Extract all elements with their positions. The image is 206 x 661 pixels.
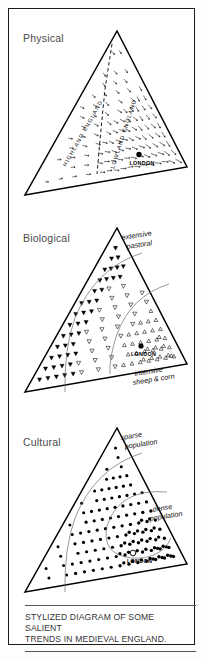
symbol-open-up-triangle [159, 327, 163, 331]
symbol-open-up-triangle [146, 319, 150, 323]
symbol-filled-down-triangle [60, 364, 64, 368]
population-dot [127, 550, 130, 553]
symbol-open-down-triangle [84, 330, 88, 334]
figure-root: Physical HIGHLAND ENGLAND LOWLAND ENGLAN… [0, 0, 206, 661]
population-dot [141, 550, 144, 553]
population-dot [154, 538, 157, 541]
population-dot [105, 468, 108, 471]
symbol-filled-down-triangle [113, 246, 117, 250]
symbol-filled-down-triangle [58, 355, 62, 359]
population-dot [117, 515, 120, 518]
symbol-open-up-triangle [168, 345, 172, 349]
population-dot [125, 494, 128, 497]
symbol-open-down-triangle [116, 315, 120, 319]
population-dot [117, 456, 120, 459]
symbol-open-up-triangle [162, 344, 166, 348]
symbol-open-down-triangle [119, 334, 123, 338]
population-dot [114, 447, 117, 450]
population-dot [121, 524, 124, 527]
population-dot [95, 499, 98, 502]
population-dot [90, 510, 93, 513]
population-dot [93, 519, 96, 522]
symbol-open-up-triangle [150, 356, 154, 360]
caption-text: STYLIZED DIAGRAM OF SOME SALIENT TRENDS … [25, 606, 178, 651]
symbol-open-up-triangle [122, 363, 126, 367]
population-dot [129, 483, 132, 486]
symbol-open-down-triangle [131, 322, 135, 326]
population-dot [105, 478, 108, 481]
symbol-open-down-triangle [110, 296, 114, 300]
symbol-open-down-triangle [140, 291, 144, 295]
population-dot [87, 530, 90, 533]
symbol-open-down-triangle [96, 368, 100, 372]
london-label-physical: LONDON [130, 160, 155, 166]
symbol-open-up-triangle [142, 357, 146, 361]
population-dot [111, 546, 114, 549]
population-dot [112, 526, 115, 529]
population-dot [118, 495, 121, 498]
population-dot [96, 529, 99, 532]
symbol-open-up-triangle [139, 321, 143, 325]
symbol-filled-down-triangle [104, 278, 108, 282]
population-dot [76, 552, 79, 555]
population-dot [116, 535, 119, 538]
population-dot [153, 546, 156, 549]
panel-title-physical: Physical [23, 32, 64, 44]
symbol-filled-down-triangle [76, 322, 80, 326]
symbol-filled-down-triangle [54, 375, 58, 379]
cultural-diagram: sparse population dense population LONDO… [9, 396, 196, 602]
symbol-filled-down-triangle [115, 266, 119, 270]
annotation-intensive-sheep-corn: intensive sheep & corn [132, 365, 175, 387]
population-dot [128, 543, 131, 546]
zone-label-highland: HIGHLAND ENGLAND [62, 99, 104, 167]
symbol-open-up-triangle [139, 340, 143, 344]
symbol-open-down-triangle [87, 340, 91, 344]
symbol-open-up-triangle [155, 338, 159, 342]
london-label-cultural: LONDON [127, 558, 152, 564]
symbol-filled-down-triangle [118, 275, 122, 279]
symbol-filled-down-triangle [74, 352, 78, 356]
population-dot [98, 508, 101, 511]
population-dot [125, 474, 128, 477]
population-dot [145, 500, 148, 503]
population-dot [101, 567, 104, 570]
population-dot [121, 504, 124, 507]
london-label-biological: LONDON [131, 351, 156, 357]
symbol-open-up-triangle [166, 353, 170, 357]
caption-block: STYLIZED DIAGRAM OF SOME SALIENT TRENDS … [17, 605, 186, 652]
symbol-filled-down-triangle [63, 344, 67, 348]
zone-label-highland-text: HIGHLAND ENGLAND [62, 99, 104, 167]
symbol-filled-down-triangle [109, 257, 113, 261]
symbol-open-down-triangle [97, 308, 101, 312]
symbol-open-down-triangle [100, 328, 104, 332]
figure-frame: Physical HIGHLAND ENGLAND LOWLAND ENGLAN… [8, 8, 195, 645]
population-dot [59, 555, 62, 558]
panel-physical: Physical HIGHLAND ENGLAND LOWLAND ENGLAN… [9, 9, 194, 214]
population-dot [161, 545, 164, 548]
population-dot [158, 528, 161, 531]
symbol-filled-down-triangle [89, 310, 93, 314]
population-dot [154, 558, 157, 561]
population-dot [140, 519, 143, 522]
symbol-open-up-triangle [131, 342, 135, 346]
symbol-open-down-triangle [115, 325, 119, 329]
population-dot [123, 541, 126, 544]
symbol-open-up-triangle [135, 331, 139, 335]
symbol-open-up-triangle [127, 333, 131, 337]
symbol-filled-down-triangle [103, 268, 107, 272]
symbol-filled-down-triangle [111, 276, 115, 280]
symbol-open-up-triangle [157, 335, 161, 339]
symbol-filled-down-triangle [49, 356, 53, 360]
population-dot [145, 520, 148, 523]
population-dot [120, 465, 123, 468]
symbol-open-up-triangle [163, 336, 167, 340]
symbol-open-down-triangle [103, 337, 107, 341]
symbol-open-down-triangle [79, 371, 83, 375]
population-dot [47, 576, 50, 579]
population-dot [103, 498, 106, 501]
symbol-filled-down-triangle [121, 265, 125, 269]
population-dot [140, 538, 143, 541]
symbol-open-down-triangle [125, 294, 129, 298]
population-dot [133, 512, 136, 515]
symbol-open-down-triangle [76, 361, 80, 365]
